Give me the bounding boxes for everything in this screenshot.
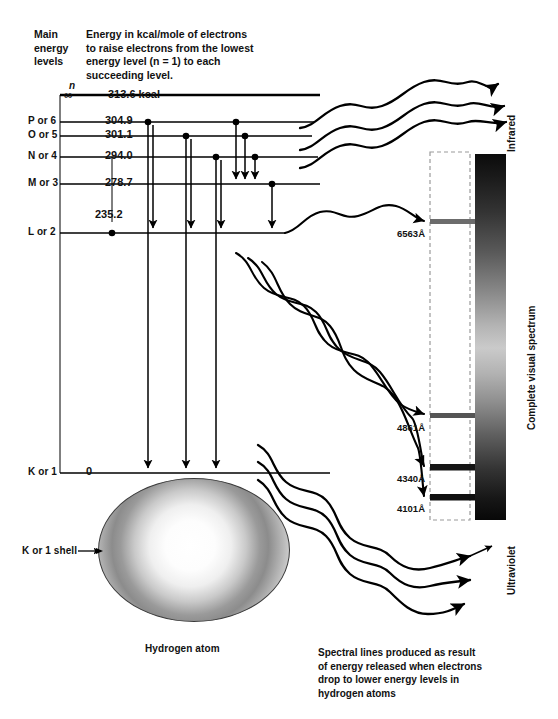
footer-caption-line-3: hydrogen atoms: [318, 687, 518, 701]
visual-spectrum-bar: [475, 154, 506, 520]
footer-caption-line-0: Spectral lines produced as result: [318, 646, 518, 660]
hydrogen-atom-caption: Hydrogen atom: [145, 643, 220, 654]
main-energy-levels-label: Main energy levels: [34, 28, 82, 69]
wavelength-label-6563: 6563Å: [397, 228, 425, 239]
spectrum-side-label: Complete visual spectrum: [526, 306, 537, 430]
level-energy-m3: 278.7: [105, 176, 133, 188]
electron-dot-o5-b: [242, 133, 249, 140]
level-energy-o5: 301.1: [105, 128, 133, 140]
level-energy-p6: 304.9: [105, 114, 133, 126]
level-label-k1: K or 1: [28, 466, 57, 477]
level-energy-n4: 294.0: [105, 149, 133, 161]
spectrum-top-label-infrared: Infrared: [506, 115, 517, 152]
photon-waves-balmer: [236, 205, 424, 496]
electron-dot-p6-b: [233, 119, 240, 126]
description-line-0: Energy in kcal/mole of electrons: [86, 28, 316, 42]
spectrum-bottom-label-ultraviolet: Ultraviolet: [506, 546, 517, 595]
description-line-3: succeeding level.: [86, 69, 316, 83]
level-label-n4: N or 4: [28, 150, 57, 161]
level-energy-l2: 235.2: [95, 208, 123, 220]
k-shell-label: K or 1 shell: [22, 545, 77, 556]
diagram-description: Energy in kcal/mole of electrons to rais…: [86, 28, 316, 82]
spectral-bar-6563: [430, 219, 476, 224]
spectral-bar-4340: [430, 464, 476, 471]
level-energy-infinity: 313.6 kcal: [108, 88, 160, 100]
k-shell-sphere: [98, 478, 290, 622]
level-lines: [60, 95, 330, 473]
electron-dot-m3-a: [269, 181, 276, 188]
header-left-line-2: levels: [34, 55, 82, 69]
spectral-line-bars: [430, 219, 476, 501]
footer-caption: Spectral lines produced as result of ene…: [318, 646, 518, 700]
spectral-bar-4861: [430, 413, 476, 418]
electron-dot-l2: [109, 230, 116, 237]
footer-caption-line-2: drop to lower energy levels in: [318, 673, 518, 687]
level-label-infinity: ∞: [64, 88, 73, 102]
level-label-m3: M or 3: [28, 177, 58, 188]
electron-dot-p6-a: [145, 119, 152, 126]
transitions-to-l2: [153, 125, 272, 228]
tick-ultraviolet: [470, 546, 492, 556]
description-line-1: to raise electrons from the lowest: [86, 42, 316, 56]
electron-dot-o5: [183, 133, 190, 140]
wavelength-label-4101: 4101Å: [397, 503, 425, 514]
electron-dot-n4: [213, 154, 220, 161]
level-energy-k1: 0: [86, 465, 92, 477]
description-line-2: energy level (n = 1) to each: [86, 55, 316, 69]
level-label-o5: O or 5: [28, 129, 58, 140]
transitions-to-k1: [148, 125, 216, 468]
level-label-p6: P or 6: [28, 115, 56, 126]
spectral-bar-4101: [430, 494, 476, 501]
wavelength-label-4861: 4861Å: [397, 422, 425, 433]
electron-dot-n4-b: [252, 154, 259, 161]
hydrogen-atom-illustration: [98, 478, 290, 622]
wave-4340: [248, 258, 424, 466]
spectrum-end-ticks: [470, 546, 492, 556]
wavelength-label-4340: 4340Å: [397, 473, 425, 484]
level-label-l2: L or 2: [28, 226, 56, 237]
footer-caption-line-1: of energy released when electrons: [318, 660, 518, 674]
header-left-line-0: Main: [34, 28, 82, 42]
header-left-line-1: energy: [34, 42, 82, 56]
